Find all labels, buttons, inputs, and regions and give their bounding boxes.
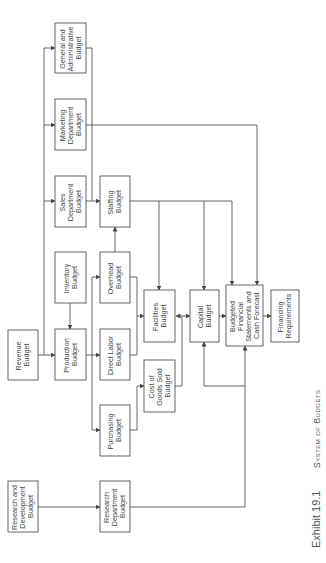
box-production: Production Budget: [55, 329, 86, 380]
box-revenue: Revenue Budget: [8, 330, 38, 380]
purchasing-merge-line: [130, 386, 137, 430]
box-inventory: Inventory Budget: [55, 252, 86, 303]
arrow-research-to-capital: [204, 342, 245, 386]
overhead-dl-merge-line: [130, 277, 137, 355]
svg-text:Revenue Budget: Revenue Budget: [14, 340, 31, 371]
box-direct-labor: Direct Labor Budget: [100, 329, 130, 380]
svg-text:Inventory Budget: Inventory Budget: [62, 262, 79, 294]
box-general-admin: General and Administrative Budget: [55, 23, 86, 73]
box-facilities: Facilities Budget: [144, 290, 175, 342]
box-capital: Capital Budget: [190, 290, 219, 342]
box-purchasing: Purchasing Budget: [100, 405, 130, 456]
box-research-and-development: Research and Development Budget: [8, 481, 38, 532]
box-research-department: Research Department Budget: [100, 481, 130, 532]
box-staffing: Staffing Budget: [100, 176, 130, 227]
exhibit-caption: Exhibit 19.1 System of Budgets: [310, 389, 322, 548]
box-overhead: Overhead Budget: [100, 252, 130, 303]
svg-text:Facilities Budget: Facilities Budget: [151, 301, 168, 331]
box-sales: Sales Department Budget: [55, 176, 86, 227]
box-budgeted-financial-statements: Budgeted Financial Statements and Cash F…: [226, 285, 263, 346]
svg-text:Capital Budget: Capital Budget: [196, 304, 213, 328]
cogs-out-line: [175, 316, 182, 386]
svg-text:Staffing Budget: Staffing Budget: [106, 188, 123, 214]
box-financing-requirements: Financing Requirements: [271, 290, 299, 342]
exhibit-number: Exhibit 19.1: [310, 491, 322, 548]
general-admin-out-line: [86, 48, 92, 201]
exhibit-title: System of Budgets: [312, 389, 322, 468]
box-marketing: Marketing Department Budget: [55, 99, 86, 150]
svg-text:Financing Requirements: Financing Requirements: [276, 293, 293, 338]
system-of-budgets-diagram: General and Administrative Budget Market…: [0, 0, 326, 563]
box-cost-of-goods-sold: Cost of Goods Sold Budget: [144, 360, 175, 412]
